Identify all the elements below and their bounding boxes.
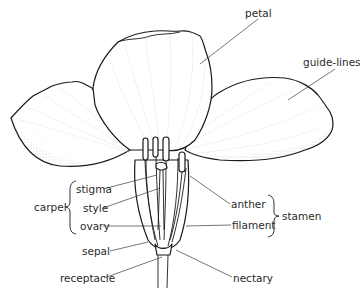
label-style: style: [83, 203, 108, 214]
label-receptacle: receptacle: [60, 273, 115, 284]
center-petal: [93, 31, 212, 151]
leader-sepal: [110, 242, 148, 251]
label-filament: filament: [232, 220, 275, 231]
label-carpel: carpel: [34, 202, 67, 213]
label-petal: petal: [245, 8, 272, 19]
label-stigma: stigma: [76, 184, 112, 195]
leader-anther: [190, 176, 230, 204]
leader-filament: [186, 225, 231, 226]
label-ovary: ovary: [80, 221, 110, 232]
leader-petal: [200, 19, 258, 64]
leader-nectary: [176, 250, 232, 277]
label-anther: anther: [231, 199, 266, 210]
label-stamen: stamen: [282, 211, 321, 222]
label-guide-lines: guide-lines: [303, 57, 361, 68]
carpel-brace: [65, 181, 76, 234]
label-sepal: sepal: [82, 246, 110, 257]
label-nectary: nectary: [233, 273, 273, 284]
receptacle-stalk: [155, 244, 172, 288]
